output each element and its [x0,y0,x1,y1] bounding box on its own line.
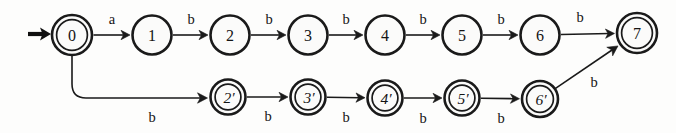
start-marker-layer [28,28,51,41]
transition-label: b [419,11,426,27]
state-node-4[interactable]: 4 [366,16,405,55]
state-node-2[interactable]: 2 [211,16,250,55]
state-label: 2′ [223,89,235,106]
state-node-3prime[interactable]: 3′ [291,80,326,115]
transition-0-to-2p [72,54,208,103]
transition-label: b [342,109,349,125]
transition-5-to-6 [483,30,518,39]
edge-arrowhead-icon [607,46,618,56]
transition-label: b [265,11,272,27]
state-label: 3′ [302,89,315,106]
transition-label: b [148,109,155,125]
state-node-2prime[interactable]: 2′ [211,80,246,115]
state-node-5prime[interactable]: 5′ [445,81,480,116]
transition-label: b [497,110,504,126]
transition-label: b [264,108,271,124]
start-arrow-icon [28,28,51,41]
transition-label: b [497,11,504,27]
state-node-5[interactable]: 5 [443,16,482,55]
transition-label: b [419,110,426,126]
state-label: 0 [68,27,76,44]
transition-3p-to-4p [327,93,365,102]
state-node-4prime[interactable]: 4′ [368,81,403,116]
state-label: 3 [304,27,312,44]
transition-1-to-2 [173,30,208,39]
state-label: 5′ [457,90,469,107]
automaton-diagram: 012345672′3′4′5′6′ abbbbbbbbbbbb [0,0,676,133]
state-label: 5 [458,27,466,44]
transition-label: b [342,11,349,27]
state-label: 6 [536,27,544,44]
edge-shaft [72,54,203,98]
transition-2-to-3 [251,30,286,39]
transition-label: b [590,74,597,90]
state-node-7[interactable]: 7 [617,13,657,53]
transition-6-to-7 [561,29,615,38]
transition-2p-to-3p [247,92,288,101]
transition-0-to-1 [94,30,131,39]
edge-shaft [554,49,614,90]
transition-3-to-4 [329,30,363,39]
state-node-3[interactable]: 3 [289,16,328,55]
state-node-1[interactable]: 1 [133,16,172,55]
state-node-0[interactable]: 0 [52,15,92,55]
state-label: 2 [226,27,234,44]
state-label: 7 [633,25,641,42]
transition-4p-to-5p [404,93,442,102]
transition-label: b [187,11,194,27]
transition-4-to-5 [406,30,440,39]
transition-6p-to-7 [554,46,618,89]
transition-label: b [576,9,583,25]
transition-5p-to-6p [481,94,520,103]
state-label: 6′ [535,91,547,108]
automaton-canvas: 012345672′3′4′5′6′ abbbbbbbbbbbb [0,0,676,133]
state-label: 4 [381,27,389,44]
state-node-6[interactable]: 6 [521,16,560,55]
state-label: 1 [148,27,156,44]
state-label: 4′ [380,90,392,107]
state-node-6prime[interactable]: 6′ [522,81,558,117]
states-layer: 012345672′3′4′5′6′ [52,13,657,117]
edge-shaft [561,34,610,35]
transition-label: a [109,11,116,27]
